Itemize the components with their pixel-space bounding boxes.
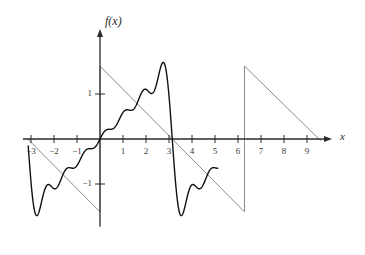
x-axis-label: x bbox=[340, 130, 345, 142]
y-tick-label: −1 bbox=[72, 178, 92, 188]
x-tick-label: 7 bbox=[249, 146, 273, 156]
function-plot bbox=[0, 0, 365, 255]
y-tick-label: 1 bbox=[72, 88, 92, 98]
x-tick-label: 9 bbox=[295, 146, 319, 156]
y-axis-arrow-icon bbox=[97, 29, 103, 37]
x-tick-label: −3 bbox=[19, 146, 43, 156]
x-tick-label: 8 bbox=[272, 146, 296, 156]
x-tick-label: 1 bbox=[111, 146, 135, 156]
x-tick-label: 6 bbox=[226, 146, 250, 156]
x-tick-label: −2 bbox=[42, 146, 66, 156]
x-axis-arrow-icon bbox=[324, 136, 332, 142]
x-tick-label: 5 bbox=[203, 146, 227, 156]
x-tick-label: −1 bbox=[65, 146, 89, 156]
x-tick-label: 2 bbox=[134, 146, 158, 156]
x-tick-label: 4 bbox=[180, 146, 204, 156]
x-tick-label: 3 bbox=[157, 146, 181, 156]
y-axis-label: f(x) bbox=[105, 14, 122, 29]
